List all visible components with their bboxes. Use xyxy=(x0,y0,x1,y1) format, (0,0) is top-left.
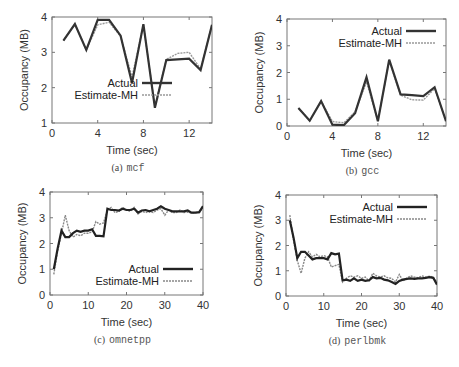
series-actual-line xyxy=(290,220,437,284)
legend-label: Actual xyxy=(128,263,159,275)
y-axis-label: Occupancy (MB) xyxy=(253,32,265,114)
y-tick-label: 1 xyxy=(275,265,281,277)
subfigure-caption: (a)mcf xyxy=(111,162,144,174)
legend: ActualEstimate-MH xyxy=(95,263,193,287)
x-tick-label: 10 xyxy=(82,299,94,311)
caption-benchmark-name: gcc xyxy=(361,166,379,177)
y-tick-label: 2 xyxy=(275,240,281,252)
y-tick-label: 3 xyxy=(41,46,47,58)
y-tick-label: 2 xyxy=(39,238,45,250)
y-tick-label: 4 xyxy=(275,189,281,201)
subfigure-caption: (d)perlbmk xyxy=(329,335,387,347)
caption-benchmark-name: mcf xyxy=(127,163,145,174)
plot-frame xyxy=(52,17,212,123)
y-tick-label: 4 xyxy=(41,11,47,23)
x-axis-label: Time (sec) xyxy=(341,147,393,159)
y-tick-label: 0 xyxy=(275,290,281,302)
x-tick-label: 0 xyxy=(283,300,289,312)
x-tick-label: 12 xyxy=(183,127,195,139)
caption-prefix: (a) xyxy=(111,162,122,174)
x-tick-label: 40 xyxy=(197,299,209,311)
series-estimate-line xyxy=(298,61,446,123)
legend: ActualEstimate-MH xyxy=(338,25,436,49)
y-axis-label: Occupancy (MB) xyxy=(16,203,28,285)
x-tick-label: 0 xyxy=(49,127,55,139)
caption-prefix: (c) xyxy=(94,334,105,346)
y-axis-label: Occupancy (MB) xyxy=(252,205,264,287)
caption-prefix: (b) xyxy=(346,165,358,177)
legend-label: Actual xyxy=(371,25,402,37)
series-estimate-line xyxy=(290,215,437,282)
x-axis-label: Time (sec) xyxy=(106,144,158,156)
x-tick-label: 4 xyxy=(329,130,335,142)
y-tick-label: 3 xyxy=(275,214,281,226)
caption-benchmark-name: perlbmk xyxy=(344,336,386,347)
x-tick-label: 40 xyxy=(431,300,443,312)
y-tick-label: 3 xyxy=(39,212,45,224)
x-tick-label: 20 xyxy=(120,299,132,311)
chart-d: 01234010203040Time (sec)Occupancy (MB)(d… xyxy=(252,189,443,347)
chart-b: 0123404812Time (sec)Occupancy (MB)(b)gcc… xyxy=(253,13,446,177)
y-tick-label: 0 xyxy=(276,120,282,132)
figure-canvas: 123404812Time (sec)Occupancy (MB)(a)mcfA… xyxy=(0,0,459,367)
legend-label: Estimate-MH xyxy=(74,89,138,101)
x-axis-label: Time (sec) xyxy=(101,316,153,328)
subfigure-caption: (b)gcc xyxy=(346,165,380,177)
x-tick-label: 20 xyxy=(355,300,367,312)
legend: ActualEstimate-MH xyxy=(329,201,427,225)
chart-c: 01234010203040Time (sec)Occupancy (MB)(c… xyxy=(16,186,209,346)
x-tick-label: 12 xyxy=(417,130,429,142)
y-tick-label: 1 xyxy=(41,117,47,129)
chart-a: 123404812Time (sec)Occupancy (MB)(a)mcfA… xyxy=(18,11,212,174)
x-tick-label: 0 xyxy=(284,130,290,142)
x-tick-label: 4 xyxy=(95,127,101,139)
y-tick-label: 2 xyxy=(41,82,47,94)
caption-prefix: (d) xyxy=(329,335,341,347)
plot-frame xyxy=(287,19,446,126)
legend-label: Estimate-MH xyxy=(95,275,159,287)
subfigure-caption: (c)omnetpp xyxy=(94,334,151,346)
series-actual-line xyxy=(298,60,446,126)
x-tick-label: 30 xyxy=(159,299,171,311)
y-tick-label: 1 xyxy=(39,263,45,275)
y-tick-label: 4 xyxy=(276,13,282,25)
y-axis-label: Occupancy (MB) xyxy=(18,29,30,111)
x-tick-label: 30 xyxy=(393,300,405,312)
legend-label: Actual xyxy=(362,201,393,213)
x-tick-label: 10 xyxy=(318,300,330,312)
legend-label: Estimate-MH xyxy=(329,213,393,225)
y-tick-label: 3 xyxy=(276,40,282,52)
x-axis-label: Time (sec) xyxy=(336,317,388,329)
y-tick-label: 4 xyxy=(39,186,45,198)
series-actual-line xyxy=(54,206,203,269)
legend-label: Actual xyxy=(107,77,138,89)
y-tick-label: 2 xyxy=(276,67,282,79)
x-tick-label: 8 xyxy=(375,130,381,142)
y-tick-label: 1 xyxy=(276,93,282,105)
y-tick-label: 0 xyxy=(39,289,45,301)
legend-label: Estimate-MH xyxy=(338,37,402,49)
x-tick-label: 0 xyxy=(47,299,53,311)
x-tick-label: 8 xyxy=(140,127,146,139)
caption-benchmark-name: omnetpp xyxy=(109,335,151,346)
